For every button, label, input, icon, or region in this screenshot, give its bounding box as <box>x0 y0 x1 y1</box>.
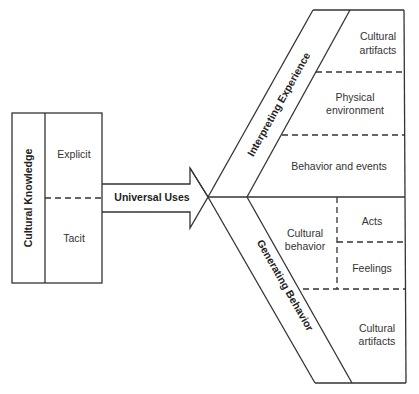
cultural-knowledge-title: Cultural Knowledge <box>22 149 34 248</box>
lower-artifacts-line2: artifacts <box>359 335 396 347</box>
arrowhead-upper-extension <box>190 168 208 197</box>
cultural-behavior-line1: Cultural <box>287 227 323 239</box>
diagram-canvas: Cultural Knowledge Explicit Tacit Univer… <box>0 0 419 394</box>
right-structure: Interpreting Experience Generating Behav… <box>190 10 406 383</box>
cultural-knowledge-box: Cultural Knowledge Explicit Tacit <box>12 113 102 283</box>
upper-cell-2-line2: environment <box>326 104 384 116</box>
cultural-behavior-line2: behavior <box>285 240 326 252</box>
lower-artifacts-line1: Cultural <box>359 322 395 334</box>
interpreting-experience-title: Interpreting Experience <box>245 50 313 158</box>
upper-cell-1-line1: Cultural <box>360 30 396 42</box>
upper-cell-1-line2: artifacts <box>360 44 397 56</box>
upper-cell-3: Behavior and events <box>291 160 387 172</box>
tacit-label: Tacit <box>63 232 85 244</box>
explicit-label: Explicit <box>57 148 90 160</box>
feelings-label: Feelings <box>352 262 392 274</box>
acts-label: Acts <box>362 215 382 227</box>
universal-uses-arrow: Universal Uses <box>102 168 208 228</box>
upper-cell-2-line1: Physical <box>335 91 374 103</box>
universal-uses-label: Universal Uses <box>114 191 189 203</box>
